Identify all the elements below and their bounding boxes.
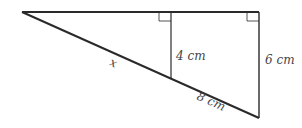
label-x: x — [107, 55, 119, 71]
right-angle-mark-outer — [247, 12, 259, 21]
label-hyp-segment: 8 cm — [195, 89, 228, 114]
right-angle-mark-inner — [159, 12, 171, 21]
label-outer-height: 6 cm — [265, 53, 295, 67]
label-inner-height: 4 cm — [175, 49, 206, 63]
triangle-diagram: x 4 cm 6 cm 8 cm — [0, 0, 302, 128]
